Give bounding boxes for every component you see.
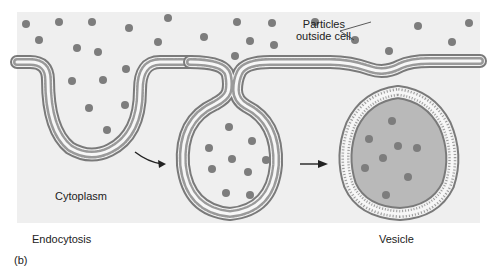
vesicle: [345, 92, 452, 214]
diagram-canvas: [0, 0, 499, 267]
panel-label: (b): [14, 254, 27, 266]
endocytosis-label: Endocytosis: [32, 233, 91, 245]
particles-label-line2: outside cell: [263, 30, 373, 42]
vesicle-label: Vesicle: [379, 233, 414, 245]
particles-label-line1: Particles: [263, 18, 373, 30]
endocytosis-diagram: Particles outside cell Cytoplasm Endocyt…: [0, 0, 499, 267]
cytoplasm-label: Cytoplasm: [55, 190, 107, 202]
particles-outside-cell-label: Particles outside cell: [263, 18, 373, 42]
